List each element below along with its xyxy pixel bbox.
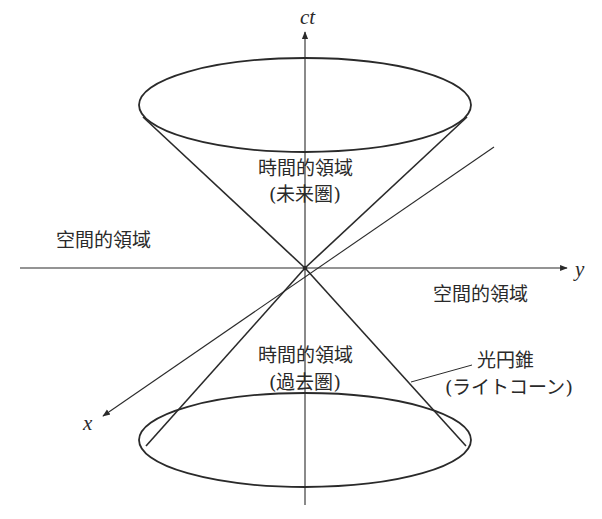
figure-caption	[0, 504, 602, 519]
space-region-right-label: 空間的領域	[433, 283, 528, 305]
light-cone-label: 光円錐	[477, 349, 534, 371]
past-region-sublabel: (過去圏)	[269, 371, 341, 393]
x-axis-label: x	[82, 411, 93, 435]
future-region-label: 時間的領域	[258, 157, 353, 179]
past-region-label: 時間的領域	[258, 344, 353, 366]
future-region-sublabel: (未来圏)	[269, 183, 341, 205]
light-cone-diagram: ct y x 時間的領域 (未来圏) 空間的領域 空間的領域 時間的領域 (過去…	[0, 0, 602, 519]
origin-point	[303, 266, 308, 271]
y-axis-label: y	[573, 257, 585, 281]
light-cone-sublabel: (ライトコーン)	[445, 376, 573, 398]
ct-axis-label: ct	[300, 5, 316, 29]
space-region-left-label: 空間的領域	[56, 229, 151, 251]
